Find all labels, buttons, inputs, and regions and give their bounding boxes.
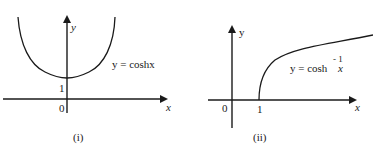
x-intercept-label: 1: [257, 104, 263, 115]
x-axis-label-ii: x: [355, 102, 360, 113]
curve-label-ii: y = cosh: [290, 63, 327, 74]
y-intercept-label: 1: [59, 83, 65, 94]
curve-label-i: y = coshx: [112, 59, 155, 70]
y-axis-label-i: y: [71, 22, 76, 33]
curve-label-ii-var: x: [338, 63, 343, 74]
x-axis-label-i: x: [166, 102, 171, 113]
graph-ii: [208, 27, 373, 128]
caption-ii: (ii): [253, 132, 266, 143]
origin-label-ii: 0: [222, 103, 228, 114]
curve-label-ii-sup: - 1: [333, 55, 343, 64]
y-axis-label-ii: y: [239, 27, 245, 38]
caption-i: (i): [73, 132, 83, 143]
origin-label-i: 0: [59, 103, 65, 114]
